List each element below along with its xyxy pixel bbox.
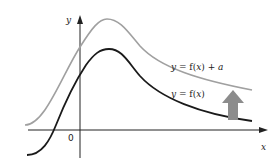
curve-f-plus-a-label: y = f(x) + a xyxy=(170,62,223,72)
curve-f-label: y = f(x) xyxy=(170,89,205,99)
origin-label: 0 xyxy=(68,133,74,143)
y-axis-arrow-icon xyxy=(77,15,83,24)
translation-diagram: y x 0 y = f(x) + a y = f(x) xyxy=(0,0,278,163)
x-axis-label: x xyxy=(261,142,266,152)
curve-f-plus-a xyxy=(25,19,252,125)
y-axis xyxy=(77,15,83,158)
x-axis-arrow-icon xyxy=(259,127,268,133)
x-axis xyxy=(28,127,268,133)
y-axis-label: y xyxy=(65,15,72,25)
